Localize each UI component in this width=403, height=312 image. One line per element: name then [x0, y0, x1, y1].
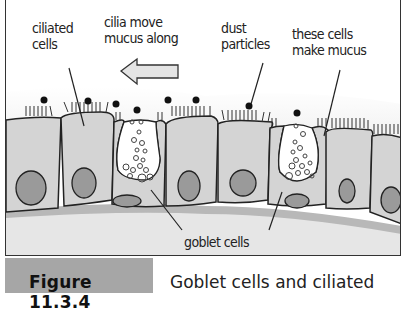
figure-number: Figure 11.3.4: [29, 272, 153, 312]
figure-caption-text: Goblet cells and ciliated: [170, 272, 374, 292]
label-goblet-cells: goblet cells: [184, 234, 249, 250]
label-cilia-move-mucus: cilia move mucus along: [104, 14, 178, 46]
figure-number-box: Figure 11.3.4: [5, 258, 153, 293]
diagram-frame: ciliated cells cilia move mucus along du…: [5, 0, 401, 256]
label-these-cells-make-mucus: these cells make mucus: [292, 26, 366, 58]
left-arrow-icon: [121, 59, 178, 84]
figure-caption: Figure 11.3.4 Goblet cells and ciliated: [5, 258, 401, 293]
label-ciliated-cells: ciliated cells: [32, 20, 73, 52]
label-dust-particles: dust particles: [221, 20, 270, 52]
